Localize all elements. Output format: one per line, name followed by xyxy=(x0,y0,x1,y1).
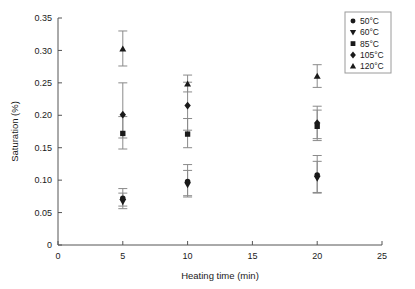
marker-triangle-up xyxy=(184,81,191,87)
marker-diamond xyxy=(184,102,190,110)
y-tick-label: 0.35 xyxy=(34,13,52,23)
saturation-vs-heating-time-chart: 051015202500.050.100.150.200.250.300.35H… xyxy=(0,0,415,289)
y-tick-label: 0 xyxy=(47,240,52,250)
chart-canvas: 051015202500.050.100.150.200.250.300.35H… xyxy=(0,0,415,289)
y-tick-label: 0.05 xyxy=(34,208,52,218)
marker-diamond xyxy=(120,111,126,119)
x-tick-label: 20 xyxy=(312,251,322,261)
y-axis-title: Saturation (%) xyxy=(9,101,20,162)
series-markers-120C xyxy=(119,46,320,87)
marker-square xyxy=(185,131,190,136)
marker-triangle-down xyxy=(314,176,321,182)
x-tick-label: 5 xyxy=(120,251,125,261)
x-tick-label: 0 xyxy=(55,251,60,261)
x-tick-label: 15 xyxy=(247,251,257,261)
y-tick-label: 0.10 xyxy=(34,175,52,185)
legend-label-50C: 50°C xyxy=(360,16,379,26)
series-120C xyxy=(118,31,321,92)
x-axis-title: Heating time (min) xyxy=(181,270,259,281)
marker-triangle-down xyxy=(119,199,126,205)
legend-label-105C: 105°C xyxy=(360,50,384,60)
y-tick-label: 0.15 xyxy=(34,143,52,153)
series-105C xyxy=(118,82,321,138)
legend-label-85C: 85°C xyxy=(360,39,379,49)
series-markers-85C xyxy=(120,124,320,137)
legend: 50°C60°C85°C105°C120°C xyxy=(345,12,391,73)
series-60C xyxy=(118,161,321,208)
y-tick-label: 0.25 xyxy=(34,78,52,88)
series-markers-50C xyxy=(120,172,320,201)
marker-triangle-up xyxy=(119,46,126,52)
series-50C xyxy=(118,155,321,206)
marker-square xyxy=(351,41,356,46)
series-markers-105C xyxy=(120,102,321,127)
y-tick-label: 0.20 xyxy=(34,110,52,120)
x-tick-label: 25 xyxy=(377,251,387,261)
x-tick-label: 10 xyxy=(183,251,193,261)
series-85C xyxy=(118,110,321,149)
marker-circle xyxy=(351,19,356,24)
marker-triangle-down xyxy=(184,182,191,188)
legend-label-120C: 120°C xyxy=(360,61,384,71)
legend-label-60C: 60°C xyxy=(360,27,379,37)
marker-square xyxy=(120,131,125,136)
marker-triangle-up xyxy=(314,73,321,79)
y-tick-label: 0.30 xyxy=(34,46,52,56)
series-markers-60C xyxy=(119,176,320,205)
